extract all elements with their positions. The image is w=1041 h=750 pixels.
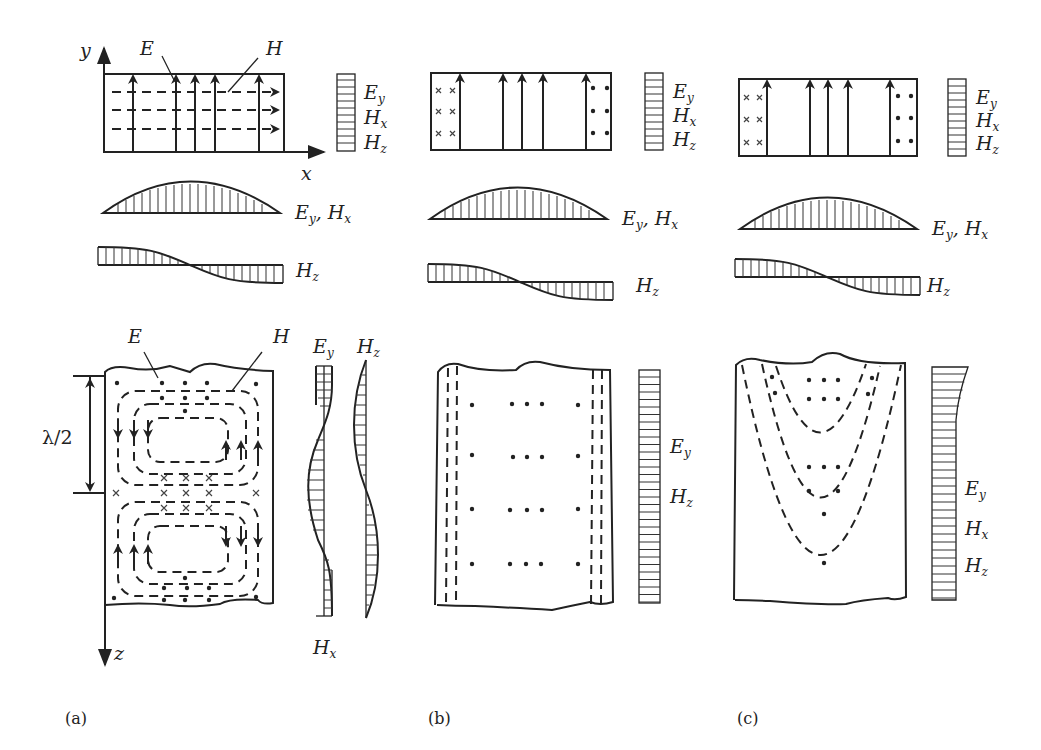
bar-label: Hx [964,517,989,542]
callout-e-label: E [139,37,154,59]
bar-label: Hx [363,106,388,131]
h-field-loops-upper [118,391,258,485]
profile-hz-longitudinal [354,360,378,618]
bar-label: Ey [964,477,986,502]
panel-c: Ey Hx Hz Ey, Hx [734,79,1000,728]
e-field-arrows [460,75,586,150]
waveguide-wall-outline [435,362,613,610]
panel-c-longitudinal: Ey Hx Hz [734,353,989,604]
uniform-bar-c [948,79,966,156]
profile-hz-b: Hz [428,264,660,300]
profile-label: Hz [635,274,660,299]
profile-label: Ey, Hx [294,201,351,226]
bar-label: Ey [672,80,694,105]
waveguide-wall-outline [734,353,906,604]
wall-current-lines [446,366,602,605]
bar-label: Hx [975,109,1000,134]
bar-label: Ey [363,81,385,106]
profile-ey-hx-c: Ey, Hx [740,198,988,243]
profile-hz-c: Hz [735,259,951,299]
profile-ey-hx-a: Ey, Hx [103,182,351,227]
callout-h-label: H [272,325,290,347]
uniform-bar-b [645,73,663,150]
bar-label: Hz [672,128,697,153]
decaying-bar-c-longitudinal [932,367,968,600]
profile-label: Ey, Hx [931,217,988,242]
panel-caption-c: (c) [737,709,758,728]
profile-hx-label: Hx [312,636,337,661]
profile-hz-label: Hz [356,335,381,360]
uniform-bar-a [337,74,355,151]
h-field-dots [770,375,874,565]
profile-label: Ey, Hx [621,207,678,232]
panel-b-cross-section: Ey Hx Hz [431,73,697,153]
h-field-crosses [744,95,762,145]
bar-label: Hx [672,104,697,129]
panel-caption-b: (b) [428,709,451,728]
bar-label: Ey [669,435,691,460]
bar-label: Hz [669,485,694,510]
e-field-parabolic-lines [742,364,901,555]
uniform-bar-b-longitudinal [639,370,660,603]
half-wavelength-label: λ/2 [42,426,73,448]
panel-a: y x E H [42,37,388,728]
h-field-dots [591,86,609,135]
axis-y-label: y [79,39,91,61]
h-field-crosses [436,88,455,136]
h-field-dots [896,94,913,143]
panel-b-longitudinal: Ey Hz [435,362,694,610]
panel-a-longitudinal: z λ/2 E H [42,325,381,665]
bar-label: Ey [975,86,997,111]
panel-b: Ey Hx Hz Ey, Hx [428,73,697,728]
axis-z-label: z [113,642,125,664]
profile-label: Hz [295,259,320,284]
h-field-loops-lower [118,502,258,596]
panel-c-cross-section: Ey Hx Hz [739,79,1000,157]
panel-a-cross-section: y x E H [79,37,388,184]
bar-label: Hz [975,132,1000,157]
bar-label: Hz [964,554,989,579]
waveguide-mode-figure: y x E H [0,0,1041,750]
callout-e-label: E [127,325,142,347]
panel-caption-a: (a) [65,709,87,728]
e-field-arrows [133,76,259,152]
e-field-crosses [113,475,259,511]
profile-hz-a: Hz [98,247,320,284]
axis-x-label: x [301,162,312,184]
profile-ey-label: Ey [312,335,334,360]
bar-label: Hz [363,131,388,156]
profile-ey-hx-b: Ey, Hx [430,188,678,233]
waveguide-wall-outline [105,364,273,607]
callout-h-label: H [265,37,283,59]
profile-label: Hz [926,274,951,299]
profile-ey-longitudinal [307,366,332,616]
e-field-dots [470,402,580,566]
e-field-arrows [767,81,890,156]
